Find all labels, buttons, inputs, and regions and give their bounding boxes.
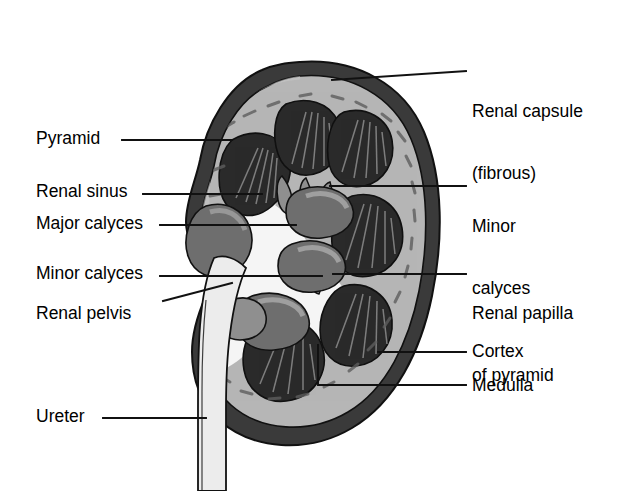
kidney-diagram-figure: Pyramid Renal sinus Major calyces Minor … xyxy=(0,0,638,491)
label-minor-calyces-left: Minor calyces xyxy=(36,263,143,284)
label-renal-papilla-line1: Renal papilla xyxy=(472,303,573,324)
label-medulla: Medulla xyxy=(472,375,533,396)
label-renal-pelvis: Renal pelvis xyxy=(36,303,131,324)
label-renal-capsule-line1: Renal capsule xyxy=(472,101,583,122)
label-ureter: Ureter xyxy=(36,406,85,427)
label-pyramid: Pyramid xyxy=(36,128,100,149)
pyramid-top-right xyxy=(328,110,393,186)
label-major-calyces: Major calyces xyxy=(36,213,143,234)
label-cortex: Cortex xyxy=(472,341,524,362)
label-minor-calyces-right-line1: Minor xyxy=(472,216,530,237)
label-renal-sinus: Renal sinus xyxy=(36,181,127,202)
pyramid-right-lower xyxy=(320,285,392,366)
